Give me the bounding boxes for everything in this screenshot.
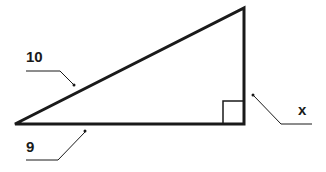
hypotenuse-leader-dot: [73, 84, 76, 87]
triangle-diagram: 10 9 x: [0, 0, 326, 172]
base-leader-dot: [84, 130, 87, 133]
height-leader-dot: [252, 94, 255, 97]
right-angle-marker: [223, 101, 244, 124]
base-leader-line: [26, 132, 85, 160]
hypotenuse-leader-line: [26, 71, 73, 84]
height-label: x: [298, 101, 307, 118]
base-label: 9: [26, 138, 34, 155]
hypotenuse-label: 10: [26, 48, 43, 65]
right-triangle: [15, 8, 244, 124]
